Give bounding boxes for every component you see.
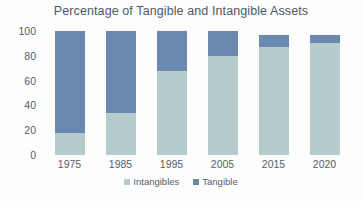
bar-segment-intangibles[interactable]: [259, 47, 289, 155]
y-axis-tick-label: 60: [24, 75, 36, 87]
x-axis-tick-label: 1985: [109, 158, 132, 170]
bar-segment-intangibles[interactable]: [157, 71, 187, 155]
x-axis-tick-label: 2015: [262, 158, 285, 170]
bar-segment-tangible[interactable]: [208, 31, 238, 56]
y-axis-tick-label: 80: [24, 50, 36, 62]
legend-swatch-icon: [193, 179, 199, 185]
x-axis-tick-label: 2020: [313, 158, 336, 170]
y-axis-tick-label: 20: [24, 124, 36, 136]
bar-segment-tangible[interactable]: [259, 35, 289, 47]
y-axis-tick-label: 40: [24, 99, 36, 111]
bar-column[interactable]: [208, 31, 238, 155]
x-axis: 197519851995200520152020: [44, 158, 350, 174]
x-axis-tick-label: 1995: [160, 158, 183, 170]
bar-segment-intangibles[interactable]: [106, 113, 136, 155]
chart-container: Percentage of Tangible and Intangible As…: [0, 0, 362, 201]
x-axis-tick-label: 1975: [58, 158, 81, 170]
legend-item[interactable]: Tangible: [193, 176, 237, 187]
bar-segment-intangibles[interactable]: [208, 56, 238, 155]
bar-segment-intangibles[interactable]: [310, 43, 340, 155]
y-axis-tick-label: 0: [30, 149, 36, 161]
bar-segment-tangible[interactable]: [106, 31, 136, 113]
legend-item-label: Intangibles: [133, 176, 179, 187]
plot-area: [44, 31, 350, 155]
chart-legend: IntangiblesTangible: [0, 176, 362, 187]
bar-column[interactable]: [310, 31, 340, 155]
x-axis-tick-label: 2005: [211, 158, 234, 170]
legend-swatch-icon: [124, 179, 130, 185]
bar-column[interactable]: [259, 31, 289, 155]
bar-segment-tangible[interactable]: [310, 35, 340, 44]
chart-title: Percentage of Tangible and Intangible As…: [0, 4, 362, 18]
bar-column[interactable]: [55, 31, 85, 155]
bar-column[interactable]: [157, 31, 187, 155]
y-axis: 020406080100: [0, 31, 40, 155]
bar-segment-tangible[interactable]: [157, 31, 187, 71]
bar-column[interactable]: [106, 31, 136, 155]
bar-segment-intangibles[interactable]: [55, 133, 85, 155]
bar-segment-tangible[interactable]: [55, 31, 85, 133]
legend-item-label: Tangible: [202, 176, 237, 187]
legend-item[interactable]: Intangibles: [124, 176, 179, 187]
y-axis-tick-label: 100: [18, 25, 36, 37]
